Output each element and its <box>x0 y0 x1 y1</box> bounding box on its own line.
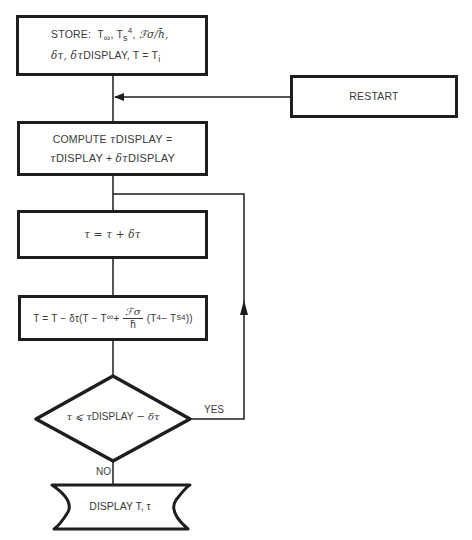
fraction: ℱσ h̄ <box>123 306 142 331</box>
display-sub: DISPLAY <box>116 133 163 145</box>
store-prefix: STORE: <box>51 28 91 40</box>
increment-label: τ = τ + δτ <box>84 226 141 244</box>
restart-box: RESTART <box>290 75 458 118</box>
inf-sub: ∞ <box>107 310 114 325</box>
increment-box: τ = τ + δτ <box>17 210 208 259</box>
update-left: T = T − δτ(T − T <box>33 310 107 327</box>
store-box: STORE: T∞, Ts4, ℱσ/h̄, δτ, δτDISPLAY, T … <box>16 15 208 76</box>
delta-tau: δτ <box>116 152 129 164</box>
yes-label: YES <box>204 404 224 415</box>
equals: = <box>163 133 172 145</box>
plus: + <box>103 152 116 164</box>
store-line-2: δτ, δτDISPLAY, T = Ti <box>51 47 169 67</box>
plus: + <box>113 310 119 327</box>
frac-numerator: ℱσ <box>123 306 142 319</box>
update-right-a: (T <box>147 310 157 327</box>
update-box: T = T − δτ(T − T∞ + ℱσ h̄ (T4 − Ts4)) <box>18 295 208 341</box>
compute-line-1: COMPUTE τDISPLAY = <box>50 130 175 149</box>
decision-tau: τ ⩽ τ <box>66 411 91 422</box>
delta-tau: δτ, δτ <box>51 49 83 61</box>
f-sigma-over-h: ℱσ/h̄, <box>139 28 169 40</box>
output-label: DISPLAY T, τ <box>89 500 150 512</box>
display-sub: DISPLAY <box>128 152 175 164</box>
ts-sup: 4 <box>128 26 133 35</box>
compute-box: COMPUTE τDISPLAY = τDISPLAY + δτDISPLAY <box>17 121 208 176</box>
store-line-1: STORE: T∞, Ts4, ℱσ/h̄, <box>51 24 169 46</box>
close-paren: )) <box>186 310 193 327</box>
compute-line-2: τDISPLAY + δτDISPLAY <box>50 149 175 168</box>
store-display: DISPLAY, T = T <box>83 49 158 61</box>
decision-rest: − δτ <box>133 411 159 422</box>
no-label: NO <box>96 466 111 477</box>
decision-text: τ ⩽ τDISPLAY − δτ <box>40 411 186 422</box>
update-right-b: − T <box>161 310 176 327</box>
t-infinity: T <box>97 28 104 40</box>
output-text: DISPLAY T, τ <box>60 500 180 512</box>
compute-prefix: COMPUTE <box>53 133 110 145</box>
display-sub: DISPLAY <box>56 152 103 164</box>
decision-display: DISPLAY <box>92 411 134 422</box>
t-infinity-sub: ∞ <box>104 33 111 43</box>
restart-label: RESTART <box>349 88 398 106</box>
ti-sub: i <box>158 54 160 64</box>
frac-denominator: h̄ <box>130 319 136 331</box>
